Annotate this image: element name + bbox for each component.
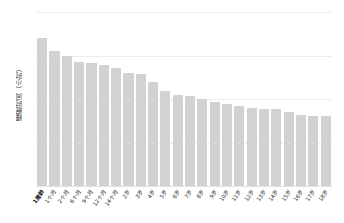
bar-slot [320, 12, 332, 186]
bar [296, 115, 306, 186]
y-axis-title-text: 睡眠时间（小时） [15, 65, 25, 121]
x-axis-tick-label-text: 5岁 [160, 189, 170, 200]
x-axis-tick-label-text: 17岁 [305, 189, 317, 203]
x-axis-tick-label: 4岁 [147, 188, 159, 222]
x-axis-tick-label: 3岁 [135, 188, 147, 222]
x-axis-tick-label: 18岁 [320, 188, 332, 222]
bar [148, 82, 158, 186]
bar-slot [48, 12, 60, 186]
bar [62, 56, 72, 187]
x-axis-tick-label-text: 6岁 [172, 189, 182, 200]
bar [74, 62, 84, 186]
bar-slot [98, 12, 110, 186]
x-axis-tick-label: 5岁 [159, 188, 171, 222]
bar [234, 106, 244, 186]
x-axis-tick-label-text: 15岁 [281, 189, 293, 203]
x-axis-tick-label-text: 14岁 [268, 189, 280, 203]
x-axis-tick-label-text: 12岁 [244, 189, 256, 203]
x-axis-tick-label: 8岁 [196, 188, 208, 222]
x-axis-tick-label-text: 1周龄 [32, 189, 46, 205]
bar-slot [110, 12, 122, 186]
bar-series [36, 12, 332, 186]
bar [37, 38, 47, 186]
bar [86, 63, 96, 186]
x-axis-tick-label: 9岁 [209, 188, 221, 222]
x-axis-tick-label-text: 10岁 [219, 189, 231, 203]
bar-slot [172, 12, 184, 186]
x-axis-tick-label: 2个月 [61, 188, 73, 222]
bar-slot [61, 12, 73, 186]
x-axis-tick-label-text: 13岁 [256, 189, 268, 203]
x-axis-tick-label: 1周龄 [36, 188, 48, 222]
bar [271, 109, 281, 186]
x-axis-tick-label: 17岁 [307, 188, 319, 222]
bar-slot [159, 12, 171, 186]
x-axis-tick-label: 13岁 [258, 188, 270, 222]
bar [173, 95, 183, 186]
bar-slot [85, 12, 97, 186]
bar-slot [73, 12, 85, 186]
x-axis-tick-label: 14岁 [270, 188, 282, 222]
x-axis-tick-label-text: 18岁 [318, 189, 330, 203]
bar-slot [184, 12, 196, 186]
x-axis-tick-label: 15岁 [283, 188, 295, 222]
bar [99, 65, 109, 186]
bar [247, 108, 257, 186]
gridline [36, 186, 332, 187]
bar-slot [295, 12, 307, 186]
x-axis-tick-label-text: 11岁 [231, 189, 243, 203]
bar-slot [307, 12, 319, 186]
x-axis-tick-labels: 1周龄1个月2个月6个月9个月12个月14个月2岁3岁4岁5岁6岁7岁8岁9岁1… [36, 188, 332, 222]
x-axis-tick-label-text: 2岁 [123, 189, 133, 200]
bar [49, 51, 59, 186]
x-axis-tick-label: 6岁 [172, 188, 184, 222]
bar-slot [147, 12, 159, 186]
x-axis-tick-label: 2岁 [122, 188, 134, 222]
bar [136, 74, 146, 186]
bar-slot [36, 12, 48, 186]
x-axis-tick-label: 11岁 [233, 188, 245, 222]
x-axis-tick-label: 6个月 [73, 188, 85, 222]
x-axis-tick-label: 16岁 [295, 188, 307, 222]
bar-slot [135, 12, 147, 186]
bar [160, 91, 170, 186]
x-axis-tick-label-text: 3岁 [135, 189, 145, 200]
x-axis-tick-label-text: 7岁 [184, 189, 194, 200]
x-axis-tick-label: 14个月 [110, 188, 122, 222]
bar-slot [221, 12, 233, 186]
x-axis-tick-label-text: 4岁 [147, 189, 157, 200]
bar [259, 109, 269, 186]
x-axis-tick-label: 7岁 [184, 188, 196, 222]
x-axis-tick-label-text: 8岁 [197, 189, 207, 200]
bar [111, 68, 121, 186]
x-axis-tick-label-text: 16岁 [293, 189, 305, 203]
bar [284, 112, 294, 186]
plot-area: 05101520 [36, 12, 332, 186]
bar [210, 102, 220, 186]
bar [308, 116, 318, 186]
sleep-duration-bar-chart: 睡眠时间（小时） 05101520 1周龄1个月2个月6个月9个月12个月14个… [0, 0, 344, 223]
x-axis-tick-label: 10岁 [221, 188, 233, 222]
bar-slot [283, 12, 295, 186]
x-axis-tick-label: 1个月 [48, 188, 60, 222]
bar-slot [122, 12, 134, 186]
bar-slot [246, 12, 258, 186]
bar [197, 99, 207, 186]
bar-slot [196, 12, 208, 186]
bar [222, 104, 232, 186]
bar-slot [209, 12, 221, 186]
bar [185, 96, 195, 186]
bar-slot [258, 12, 270, 186]
bar-slot [270, 12, 282, 186]
y-axis-title: 睡眠时间（小时） [13, 0, 27, 186]
bar-slot [233, 12, 245, 186]
bar [123, 73, 133, 186]
x-axis-tick-label: 12岁 [246, 188, 258, 222]
bar [321, 116, 331, 186]
